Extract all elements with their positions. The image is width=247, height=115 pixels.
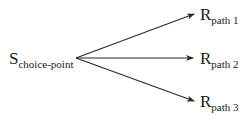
- target-node-path-3: Rpath 3: [200, 93, 239, 110]
- target-subscript: path 2: [211, 58, 238, 70]
- target-subscript: path 3: [211, 101, 238, 113]
- arrow-to-path-3: [76, 58, 194, 101]
- source-subscript: choice-point: [18, 58, 73, 70]
- source-node-choice-point: Schoice-point: [9, 50, 73, 67]
- arrow-to-path-1: [76, 14, 194, 58]
- target-main-symbol: R: [200, 92, 211, 111]
- target-node-path-1: Rpath 1: [200, 6, 239, 23]
- target-main-symbol: R: [200, 49, 211, 68]
- target-main-symbol: R: [200, 5, 211, 24]
- target-node-path-2: Rpath 2: [200, 50, 239, 67]
- target-subscript: path 1: [211, 14, 238, 26]
